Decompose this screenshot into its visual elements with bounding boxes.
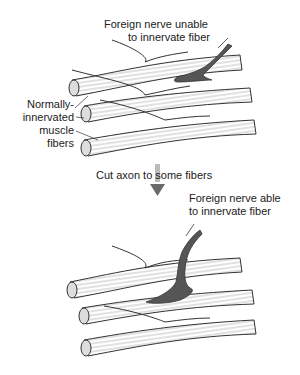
label-foreign-unable-line1: Foreign nerve unable [104, 18, 208, 31]
top-fiber-3 [81, 120, 256, 156]
label-normal-line1: Normally- [27, 98, 74, 111]
label-foreign-able-line2: to innervate fiber [189, 205, 271, 218]
label-cut-axon: Cut axon to some fibers [96, 169, 212, 182]
top-fiber-2 [81, 88, 252, 122]
label-foreign-able-line1: Foreign nerve able [189, 192, 281, 205]
label-normal-line2: innervated [23, 111, 74, 124]
label-normal-line4: fibers [47, 137, 74, 150]
label-normal-line3: muscle [39, 124, 74, 137]
diagram-canvas [0, 0, 300, 375]
label-foreign-unable-line2: to innervate fiber [128, 31, 210, 44]
bottom-fiber-3 [81, 320, 256, 356]
